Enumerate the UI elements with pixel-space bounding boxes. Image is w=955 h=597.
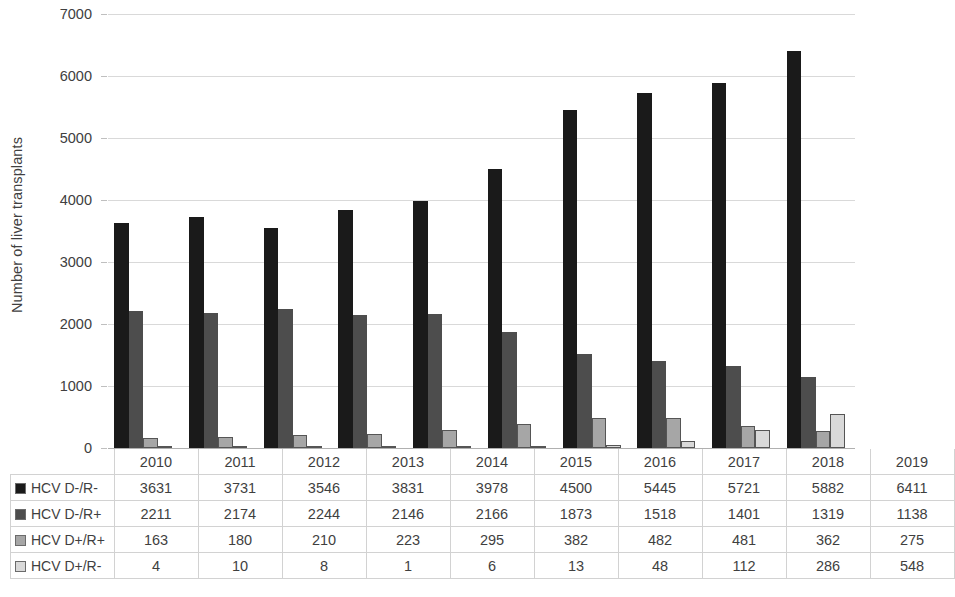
table-cell-2019: 1138: [870, 501, 954, 527]
legend-label: HCV D+/R-: [31, 558, 101, 574]
table-cell-2011: 3731: [198, 475, 282, 501]
table-column-header-2012: 2012: [282, 449, 366, 475]
table-cell-2018: 5882: [786, 475, 870, 501]
y-tick-label-2000: 2000: [2, 316, 92, 332]
bar-2017-HCV-D-R-: [681, 441, 696, 448]
bar-2016-HCV-D-R-: [577, 354, 592, 448]
table-cell-2014: 295: [450, 527, 534, 553]
table-cell-2019: 6411: [870, 475, 954, 501]
bar-2013-HCV-D-R-: [353, 315, 368, 448]
table-cell-2018: 286: [786, 553, 870, 579]
y-tick-mark-7000: [101, 14, 107, 15]
table-cell-2018: 1319: [786, 501, 870, 527]
table-cell-2016: 48: [618, 553, 702, 579]
legend-swatch-icon: [15, 509, 26, 520]
table-row: HCV D-/R-3631373135463831397845005445572…: [11, 475, 955, 501]
legend-swatch-icon: [15, 483, 26, 494]
y-tick-label-7000: 7000: [2, 6, 92, 22]
bars-layer: [108, 14, 855, 448]
legend-label: HCV D-/R-: [31, 480, 98, 496]
bar-2018-HCV-D-R-: [755, 430, 770, 448]
table-cell-2016: 482: [618, 527, 702, 553]
table-cell-2014: 3978: [450, 475, 534, 501]
table-cell-2015: 382: [534, 527, 618, 553]
bar-group-2019: [780, 14, 855, 448]
bar-2019-HCV-D-R-: [787, 51, 802, 448]
bar-2010-HCV-D-R-: [129, 311, 144, 448]
bar-2018-HCV-D-R-: [712, 83, 727, 448]
table-cell-2015: 4500: [534, 475, 618, 501]
bar-2012-HCV-D-R-: [264, 228, 279, 448]
table-column-header-2013: 2013: [366, 449, 450, 475]
table-row: HCV D-/R+2211217422442146216618731518140…: [11, 501, 955, 527]
legend-label: HCV D-/R+: [31, 506, 101, 522]
bar-group-2015: [482, 14, 557, 448]
legend-swatch-icon: [15, 535, 26, 546]
table-cell-2016: 1518: [618, 501, 702, 527]
bar-2019-HCV-D-R-: [830, 414, 845, 448]
table-cell-2014: 2166: [450, 501, 534, 527]
bar-2017-HCV-D-R-: [652, 361, 667, 448]
bar-2017-HCV-D-R-: [666, 418, 681, 448]
bar-2014-HCV-D-R-: [442, 430, 457, 448]
bar-group-2012: [257, 14, 332, 448]
bar-2016-HCV-D-R-: [563, 110, 578, 448]
table-cell-2012: 3546: [282, 475, 366, 501]
table-cell-2013: 2146: [366, 501, 450, 527]
table-cell-2011: 10: [198, 553, 282, 579]
y-tick-mark-2000: [101, 324, 107, 325]
bar-2019-HCV-D-R-: [801, 377, 816, 448]
bar-2018-HCV-D-R-: [741, 426, 756, 448]
bar-2012-HCV-D-R-: [307, 446, 322, 448]
table-column-header-2015: 2015: [534, 449, 618, 475]
bar-2018-HCV-D-R-: [726, 366, 741, 448]
y-axis-ticks: 01000200030004000500060007000: [0, 0, 100, 462]
bar-2012-HCV-D-R-: [293, 435, 308, 448]
table-column-header-2011: 2011: [198, 449, 282, 475]
y-tick-label-5000: 5000: [2, 130, 92, 146]
bar-2015-HCV-D-R-: [517, 424, 532, 448]
bar-2019-HCV-D-R-: [816, 431, 831, 448]
table-cell-2013: 1: [366, 553, 450, 579]
legend-entry-HCV-D-R-: HCV D+/R+: [11, 527, 115, 553]
y-tick-mark-4000: [101, 200, 107, 201]
bar-2015-HCV-D-R-: [531, 446, 546, 448]
table-cell-2010: 3631: [114, 475, 198, 501]
bar-group-2018: [706, 14, 781, 448]
table-column-header-2019: 2019: [870, 449, 954, 475]
bar-2015-HCV-D-R-: [502, 332, 517, 448]
table-cell-2017: 112: [702, 553, 786, 579]
bar-2013-HCV-D-R-: [382, 446, 397, 448]
table-column-header-2014: 2014: [450, 449, 534, 475]
table-column-header-2017: 2017: [702, 449, 786, 475]
bar-group-2014: [407, 14, 482, 448]
legend-entry-HCV-D-R-: HCV D+/R-: [11, 553, 115, 579]
y-tick-mark-6000: [101, 76, 107, 77]
table-column-header-2016: 2016: [618, 449, 702, 475]
table-cell-2016: 5445: [618, 475, 702, 501]
y-tick-label-1000: 1000: [2, 378, 92, 394]
bar-group-2011: [183, 14, 258, 448]
bar-2011-HCV-D-R-: [204, 313, 219, 448]
table-header-row: 2010201120122013201420152016201720182019: [11, 449, 955, 475]
bar-group-2010: [108, 14, 183, 448]
legend-swatch-icon: [15, 561, 26, 572]
y-tick-label-4000: 4000: [2, 192, 92, 208]
bar-2011-HCV-D-R-: [233, 446, 248, 448]
legend-entry-HCV-D-R-: HCV D-/R+: [11, 501, 115, 527]
y-tick-mark-1000: [101, 386, 107, 387]
y-tick-mark-5000: [101, 138, 107, 139]
legend-entry-HCV-D-R-: HCV D-/R-: [11, 475, 115, 501]
bar-2017-HCV-D-R-: [637, 93, 652, 448]
y-tick-label-6000: 6000: [2, 68, 92, 84]
bar-2010-HCV-D-R-: [114, 223, 129, 448]
bar-2011-HCV-D-R-: [189, 217, 204, 448]
table-row: HCV D+/R-4108161348112286548: [11, 553, 955, 579]
table-cell-2013: 3831: [366, 475, 450, 501]
table-cell-2012: 2244: [282, 501, 366, 527]
bar-2016-HCV-D-R-: [606, 445, 621, 448]
table-cell-2011: 180: [198, 527, 282, 553]
bar-2016-HCV-D-R-: [592, 418, 607, 448]
table-cell-2015: 13: [534, 553, 618, 579]
